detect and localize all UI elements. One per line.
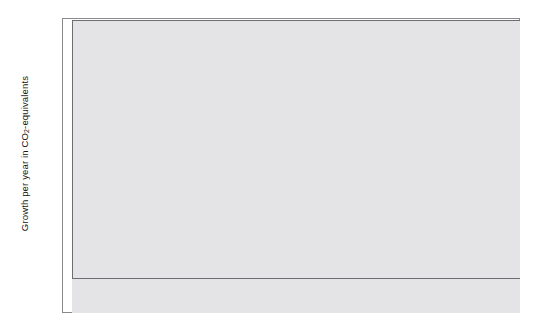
plot-area (72, 20, 520, 278)
stacked-area-series (73, 21, 521, 279)
y-axis-tick-labels (18, 0, 66, 331)
chart-figure: Growth per year in CO2-equivalents (0, 0, 543, 331)
x-axis-tick-labels (72, 278, 520, 313)
